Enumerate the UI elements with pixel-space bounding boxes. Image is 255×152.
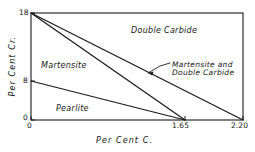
region-label-martensite-and-double-carbide: Martensite and Double Carbide — [172, 61, 234, 77]
x-axis-title: Per Cent C. — [96, 136, 153, 145]
x-tick-label-220: 2.20 — [231, 121, 248, 130]
region-label-pearlite: Pearlite — [56, 105, 89, 114]
phase-diagram-figure: Per Cent Cr. Per Cent C. 18 8 0 0 1.65 2… — [0, 0, 255, 152]
x-tick-label-165: 1.65 — [172, 121, 189, 130]
y-tick-label-8: 8 — [23, 76, 28, 85]
region-label-martensite: Martensite — [41, 62, 87, 71]
annotation-line-2: Double Carbide — [172, 68, 234, 77]
y-tick-label-18: 18 — [19, 8, 29, 17]
x-tick-label-0: 0 — [27, 121, 32, 130]
region-label-double-carbide: Double Carbide — [131, 27, 197, 36]
y-axis-title: Per Cent Cr. — [8, 37, 17, 97]
